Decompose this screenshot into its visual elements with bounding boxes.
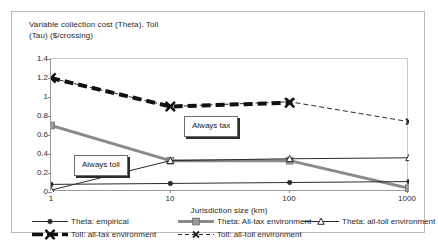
- y-tick-label: 0.6: [37, 131, 48, 139]
- series-3: [51, 73, 294, 111]
- series-0: [51, 179, 409, 186]
- legend-swatch-theta-all-tax: [178, 216, 214, 227]
- legend-swatch-toll-all-toll: [178, 229, 214, 240]
- legend-label: Theta: empirical: [71, 218, 129, 226]
- x-axis-label: Jurisdiction size (km): [50, 206, 408, 215]
- y-tick-label: 1.4: [37, 55, 48, 63]
- legend-row: Toll: all-tax environment Toll: all-toll…: [32, 228, 424, 241]
- legend-item-toll-all-tax[interactable]: Toll: all-tax environment: [32, 228, 156, 241]
- x-tick-label: 1000: [398, 195, 416, 203]
- annotation-always-toll: Always toll: [74, 155, 128, 176]
- legend-swatch-toll-all-tax: [32, 229, 68, 240]
- legend-label: Toll: all-toll environment: [217, 231, 302, 239]
- x-tick-label: 1: [49, 195, 53, 203]
- legend-swatch-theta-empirical: [32, 216, 68, 227]
- legend-label: Toll: all-tax environment: [71, 231, 156, 239]
- y-tick-label: 0.4: [37, 150, 48, 158]
- legend-item-theta-empirical[interactable]: Theta: empirical: [32, 215, 129, 228]
- x-tick-label: 100: [282, 195, 295, 203]
- legend-item-theta-all-toll[interactable]: Theta: all-toll environment: [303, 215, 435, 228]
- y-tick-label: 0: [44, 188, 48, 196]
- chart-title: Variable collection cost (Theta), Toll (…: [29, 20, 179, 41]
- y-tick-label: 1: [44, 93, 48, 101]
- x-tick-label: 10: [166, 195, 175, 203]
- legend-row: Theta: empirical Theta: All-tax environm…: [32, 215, 424, 228]
- legend-swatch-theta-all-toll: [303, 216, 339, 227]
- legend-label: Theta: all-toll environment: [342, 218, 435, 226]
- legend-item-theta-all-tax[interactable]: Theta: All-tax environment: [178, 215, 311, 228]
- y-tick-label: 1.2: [37, 74, 48, 82]
- y-tick-label: 0.8: [37, 112, 48, 120]
- legend-label: Theta: All-tax environment: [217, 218, 311, 226]
- y-tick-label: 0.2: [37, 169, 48, 177]
- chart-legend: Theta: empirical Theta: All-tax environm…: [32, 215, 424, 241]
- legend-item-toll-all-toll[interactable]: Toll: all-toll environment: [178, 228, 302, 241]
- annotation-always-tax: Always tax: [184, 116, 238, 137]
- figure-frame: Variable collection cost (Theta), Toll (…: [11, 11, 425, 233]
